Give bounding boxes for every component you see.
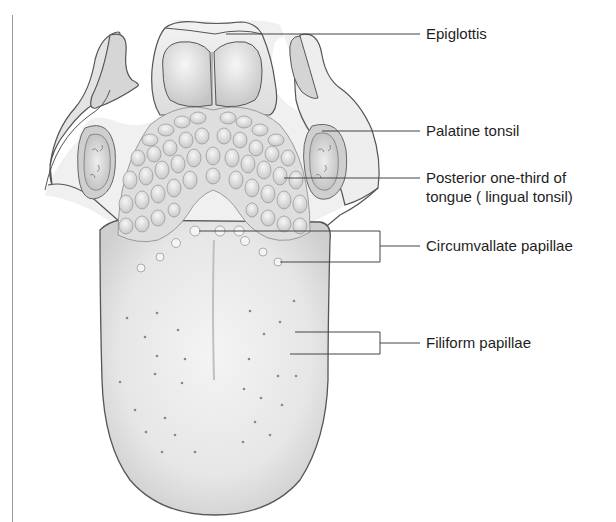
- tongue-body: [100, 220, 330, 515]
- label-filiform-papillae: Filiform papillae: [426, 334, 531, 352]
- label-palatine-tonsil: Palatine tonsil: [426, 122, 519, 140]
- label-circumvallate-papillae: Circumvallate papillae: [426, 237, 573, 255]
- left-palatine-tonsil: [78, 126, 116, 199]
- label-posterior-third-line1: Posterior one-third of: [426, 169, 566, 187]
- right-palatine-tonsil: [304, 124, 347, 199]
- label-epiglottis: Epiglottis: [426, 25, 487, 43]
- tongue-diagram: [0, 0, 616, 522]
- label-posterior-third-line2: tongue ( lingual tonsil): [426, 188, 573, 206]
- median-sulcus: [213, 240, 214, 380]
